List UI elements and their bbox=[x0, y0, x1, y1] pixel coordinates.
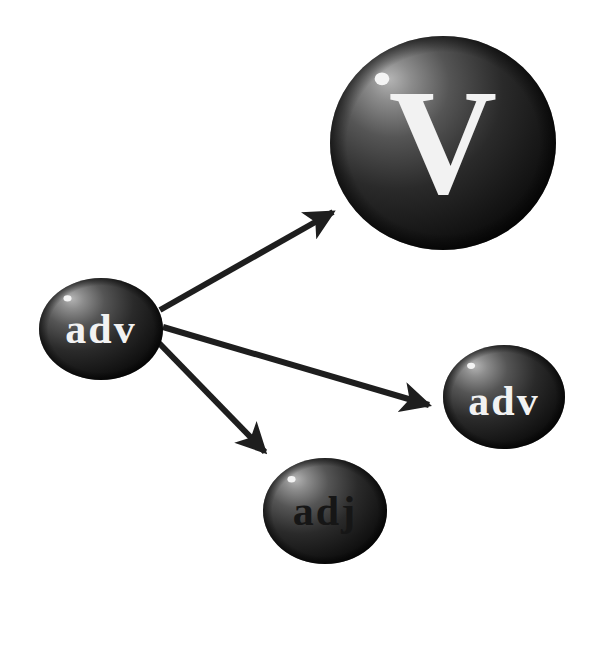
specular-highlight bbox=[63, 295, 71, 301]
node-adv-source: adv bbox=[39, 278, 163, 380]
edges-layer bbox=[158, 212, 429, 452]
arrow-adv-source-to-verb bbox=[160, 212, 333, 310]
node-label: V bbox=[389, 59, 497, 225]
dependency-diagram: Vadvadvadj bbox=[0, 0, 591, 655]
node-adv-target: adv bbox=[443, 345, 565, 449]
node-label: adv bbox=[65, 306, 136, 352]
node-verb: V bbox=[330, 36, 556, 250]
arrow-adv-source-to-adj-target bbox=[158, 342, 265, 452]
specular-highlight bbox=[467, 363, 475, 369]
diagram-canvas: Vadvadvadj bbox=[0, 0, 591, 655]
node-label: adj bbox=[293, 488, 357, 534]
specular-highlight bbox=[287, 476, 295, 482]
node-adj-target: adj bbox=[263, 458, 387, 564]
nodes-layer: Vadvadvadj bbox=[39, 36, 565, 564]
node-label: adv bbox=[468, 378, 539, 424]
specular-highlight bbox=[375, 72, 390, 85]
arrow-adv-source-to-adv-target bbox=[163, 327, 429, 405]
